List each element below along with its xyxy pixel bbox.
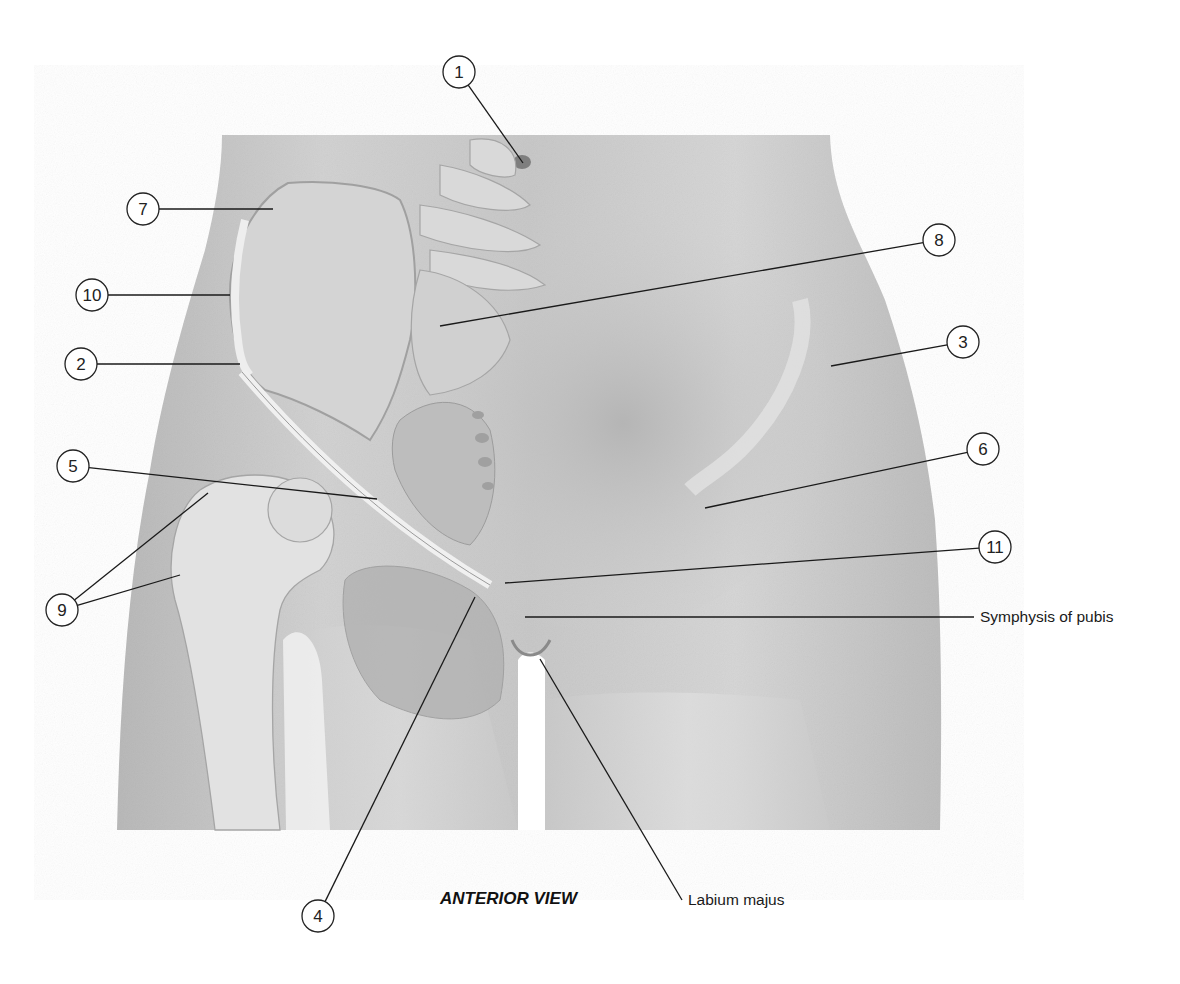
callout-number: 2 <box>76 355 85 374</box>
callout-number: 4 <box>313 907 322 926</box>
label-text: Symphysis of pubis <box>980 608 1114 625</box>
callout-number: 8 <box>934 231 943 250</box>
callout-number: 1 <box>454 63 463 82</box>
figure-caption: ANTERIOR VIEW <box>439 889 579 908</box>
callout-number: 3 <box>958 333 967 352</box>
callout-number: 5 <box>68 457 77 476</box>
callout-number: 9 <box>57 601 66 620</box>
callout-number: 7 <box>138 200 147 219</box>
anatomy-figure: 1781023651194 Symphysis of pubisLabium m… <box>0 0 1180 984</box>
callout-number: 6 <box>978 440 987 459</box>
callout-number: 10 <box>83 286 102 305</box>
callout-number: 11 <box>986 538 1004 557</box>
label-text: Labium majus <box>688 891 785 908</box>
